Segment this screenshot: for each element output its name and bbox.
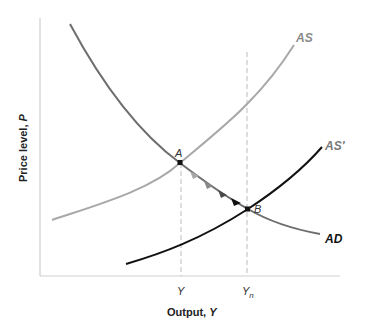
ad-curve — [70, 24, 320, 234]
x-axis-title-var: Y — [209, 306, 218, 318]
ad-as-diagram: A B AS AS' AD Y Yn Output, Y Price level… — [0, 0, 365, 332]
point-a-marker — [178, 160, 183, 165]
as-label: AS — [295, 31, 313, 45]
x-tick-yn: Yn — [242, 285, 254, 300]
x-axis-title-text: Output, — [167, 306, 209, 318]
y-axis-title-text: Price level, — [17, 121, 29, 182]
x-axis-title: Output, Y — [167, 306, 218, 318]
y-axis-title: Price level, P — [17, 113, 29, 182]
x-tick-yn-sub: n — [249, 291, 254, 300]
x-tick-y: Y — [177, 285, 185, 297]
as-curve — [52, 45, 294, 220]
as-prime-label: AS' — [324, 139, 346, 153]
arrow-icon — [218, 190, 227, 198]
point-b-marker — [245, 207, 250, 212]
as-prime-curve — [126, 147, 322, 264]
axes — [40, 18, 340, 276]
y-axis-title-var: P — [17, 113, 29, 121]
point-a-label: A — [174, 147, 182, 159]
ad-label: AD — [324, 232, 343, 246]
point-b-label: B — [254, 203, 261, 215]
